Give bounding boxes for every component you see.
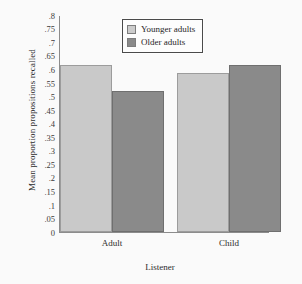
y-tick-label: .5: [9, 93, 55, 102]
y-tick-label: .75: [9, 25, 55, 34]
y-tick-label: .6: [9, 66, 55, 75]
legend-swatch-icon: [127, 38, 136, 47]
y-tick-label: .65: [9, 52, 55, 61]
y-tick-label: .2: [9, 174, 55, 183]
legend: Younger adultsOlder adults: [122, 19, 203, 53]
x-tick-label: Adult: [60, 238, 164, 248]
y-axis-tick-labels: .8.75.7.65.6.55.5.45.4.35.3.25.2.15.1.05…: [7, 16, 55, 233]
legend-item[interactable]: Younger adults: [127, 23, 195, 36]
y-tick-label: 0: [9, 229, 55, 238]
y-tick-label: .15: [9, 188, 55, 197]
y-tick-label: .3: [9, 147, 55, 156]
y-tick-label: .1: [9, 202, 55, 211]
legend-label: Younger adults: [141, 24, 195, 35]
bar-chart: Mean proportion propositions recalled .8…: [0, 0, 302, 284]
legend-label: Older adults: [141, 37, 185, 48]
bar-adult-younger[interactable]: [60, 65, 112, 232]
y-tick-label: .35: [9, 134, 55, 143]
bar-adult-older[interactable]: [112, 91, 164, 232]
legend-swatch-icon: [127, 25, 136, 34]
y-tick-label: .45: [9, 107, 55, 116]
y-tick-label: .7: [9, 39, 55, 48]
legend-item[interactable]: Older adults: [127, 36, 195, 49]
y-tick-label: .05: [9, 215, 55, 224]
y-tick-label: .4: [9, 120, 55, 129]
y-tick-label: .55: [9, 80, 55, 89]
x-tick-label: Child: [177, 238, 281, 248]
y-tick-label: .25: [9, 161, 55, 170]
x-axis-line: [59, 232, 269, 233]
y-tick-label: .8: [9, 12, 55, 21]
bar-child-older[interactable]: [229, 65, 281, 232]
bar-child-younger[interactable]: [177, 73, 229, 232]
x-axis-title: Listener: [0, 262, 302, 272]
